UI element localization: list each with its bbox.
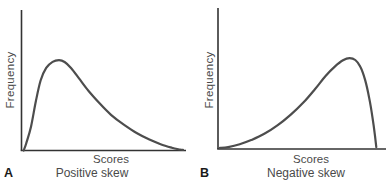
- panel-letter-a: A: [4, 166, 13, 180]
- distribution-curve: [24, 60, 183, 150]
- x-axis-label: Scores: [293, 153, 329, 165]
- y-axis-label: Frequency: [203, 51, 215, 108]
- panel-b-negative-skew: Frequency Scores B Negative skew: [196, 0, 392, 184]
- distribution-curve: [220, 58, 376, 148]
- x-axis-label: Scores: [93, 153, 129, 165]
- panel-a-positive-skew: Frequency Scores A Positive skew: [0, 0, 196, 184]
- skew-distributions-figure: Frequency Scores A Positive skew Frequen…: [0, 0, 392, 184]
- panel-letter-b: B: [200, 166, 209, 180]
- panel-a-caption: Positive skew: [56, 166, 129, 180]
- panel-b-caption: Negative skew: [267, 166, 345, 180]
- y-axis-label: Frequency: [4, 51, 16, 108]
